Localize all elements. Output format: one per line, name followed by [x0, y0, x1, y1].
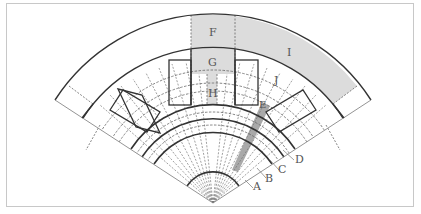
- label-a: A: [252, 180, 262, 193]
- label-i: I: [287, 46, 291, 59]
- sector-diagram: F G H I J E A B C D: [0, 0, 421, 214]
- label-b: B: [265, 172, 273, 185]
- label-f: F: [209, 26, 217, 39]
- sector-edges: [55, 100, 371, 203]
- label-h: H: [208, 87, 218, 100]
- label-j: J: [273, 74, 278, 87]
- label-e: E: [259, 99, 266, 110]
- label-d: D: [295, 153, 304, 166]
- label-g: G: [208, 56, 217, 69]
- label-c: C: [278, 163, 286, 176]
